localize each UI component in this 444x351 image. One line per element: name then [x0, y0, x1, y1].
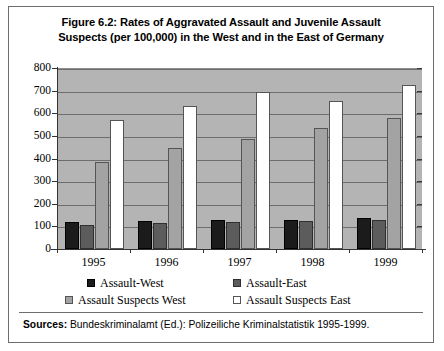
gridline — [58, 69, 422, 70]
legend-swatch-icon-assault-east — [233, 279, 241, 287]
x-axis-tick-label: 1995 — [57, 255, 130, 270]
y-axis-right-tick-mark — [417, 68, 422, 69]
bar-1998-series-3 — [329, 101, 344, 249]
figure-title: Figure 6.2: Rates of Aggravated Assault … — [19, 15, 423, 44]
x-axis-tick-mark — [349, 249, 350, 253]
y-axis-tick-mark — [52, 113, 57, 114]
bar-1996-series-2 — [168, 148, 183, 249]
y-axis-tick-mark — [52, 68, 57, 69]
bar-1998-series-2 — [314, 128, 329, 249]
sources-note: Sources: Bundeskriminalamt (Ed.): Polize… — [23, 319, 423, 330]
gridline — [58, 114, 422, 115]
legend-swatch-icon-assault-suspects-east — [233, 296, 241, 304]
y-axis-tick-mark — [52, 181, 57, 182]
y-axis-tick-mark — [52, 226, 57, 227]
bar-1996-series-3 — [183, 106, 198, 249]
legend-label-assault-suspects-east: Assault Suspects East — [246, 293, 351, 308]
sources-label: Sources: — [23, 319, 67, 330]
y-axis-tick-label: 0 — [11, 243, 51, 254]
bar-1999-series-3 — [402, 85, 417, 249]
figure-container: Figure 6.2: Rates of Aggravated Assault … — [8, 6, 434, 343]
bar-1996-series-0 — [138, 221, 153, 249]
legend-row-1: Assault-West Assault-East — [65, 275, 385, 291]
plot-inner — [58, 69, 422, 249]
legend-item-assault-east: Assault-East — [233, 275, 307, 291]
legend-row-2: Assault Suspects West Assault Suspects E… — [65, 292, 385, 308]
bar-1995-series-0 — [65, 222, 80, 249]
y-axis-right-tick-mark — [417, 159, 422, 160]
legend-item-assault-suspects-east: Assault Suspects East — [233, 292, 351, 308]
bar-1997-series-0 — [211, 220, 226, 249]
x-axis-tick-mark — [422, 249, 423, 253]
gridline — [58, 92, 422, 93]
legend-item-assault-west: Assault-West — [87, 275, 164, 291]
x-axis-tick-mark — [203, 249, 204, 253]
bar-1999-series-1 — [372, 220, 387, 249]
bar-1998-series-1 — [299, 221, 314, 249]
x-axis-tick-label: 1996 — [130, 255, 203, 270]
y-axis-tick-mark — [52, 249, 57, 250]
y-axis-right-tick-mark — [417, 204, 422, 205]
bar-1997-series-1 — [226, 222, 241, 249]
legend-item-assault-suspects-west: Assault Suspects West — [65, 292, 185, 308]
legend-label-assault-suspects-west: Assault Suspects West — [78, 293, 185, 308]
y-axis-tick-mark — [52, 204, 57, 205]
y-axis-tick-mark — [52, 91, 57, 92]
bar-1995-series-2 — [95, 162, 110, 249]
legend-label-assault-east: Assault-East — [246, 276, 307, 291]
y-axis-tick-label: 600 — [11, 107, 51, 118]
y-axis-right-tick-mark — [417, 113, 422, 114]
y-axis-tick-label: 500 — [11, 130, 51, 141]
x-axis-tick-mark — [276, 249, 277, 253]
bar-1995-series-3 — [110, 120, 125, 249]
y-axis-tick-label: 400 — [11, 153, 51, 164]
sources-text: Bundeskriminalamt (Ed.): Polizeiliche Kr… — [67, 319, 369, 330]
y-axis-tick-mark — [52, 136, 57, 137]
y-axis-right-tick-mark — [417, 226, 422, 227]
x-axis-tick-label: 1999 — [349, 255, 422, 270]
x-axis-tick-labels: 19951996199719981999 — [57, 253, 422, 271]
bar-1999-series-2 — [387, 118, 402, 249]
chart-legend: Assault-West Assault-East Assault Suspec… — [65, 275, 385, 309]
x-axis-tick-mark — [57, 249, 58, 253]
bar-1997-series-3 — [256, 92, 271, 249]
y-axis-right-tick-mark — [417, 91, 422, 92]
chart-plot-region: 0100200300400500600700800 19951996199719… — [9, 53, 433, 271]
x-axis-tick-mark — [130, 249, 131, 253]
y-axis-tick-label: 300 — [11, 175, 51, 186]
x-axis-tick-label: 1997 — [203, 255, 276, 270]
y-axis-line — [57, 67, 58, 250]
y-axis-right-tick-mark — [417, 249, 422, 250]
y-axis-tick-label: 100 — [11, 220, 51, 231]
y-axis-right-tick-mark — [417, 181, 422, 182]
y-axis-tick-labels: 0100200300400500600700800 — [9, 53, 51, 253]
y-axis-tick-label: 200 — [11, 198, 51, 209]
figure-title-line-1: Figure 6.2: Rates of Aggravated Assault … — [19, 15, 423, 30]
bar-1998-series-0 — [284, 220, 299, 249]
y-axis-tick-label: 700 — [11, 85, 51, 96]
plot-background — [57, 68, 422, 249]
y-axis-right-tick-mark — [417, 136, 422, 137]
legend-label-assault-west: Assault-West — [100, 276, 164, 291]
sources-divider — [19, 312, 423, 313]
bar-1997-series-2 — [241, 139, 256, 249]
y-axis-tick-label: 800 — [11, 62, 51, 73]
x-axis-tick-label: 1998 — [276, 255, 349, 270]
bar-1995-series-1 — [80, 225, 95, 249]
bar-1996-series-1 — [153, 223, 168, 249]
y-axis-tick-mark — [52, 159, 57, 160]
bar-1999-series-0 — [357, 218, 372, 249]
legend-swatch-icon-assault-west — [87, 279, 95, 287]
figure-title-line-2: Suspects (per 100,000) in the West and i… — [19, 30, 423, 45]
legend-swatch-icon-assault-suspects-west — [65, 296, 73, 304]
x-axis-line — [51, 249, 426, 250]
